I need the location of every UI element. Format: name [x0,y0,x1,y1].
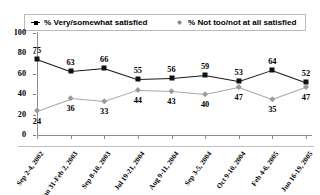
series-line-segment [71,98,105,102]
data-point-label: 55 [130,67,146,75]
legend-entry-not-too-not-at-all-satisfied: % Not too/not at all satisfied [175,17,296,28]
series-line-segment [138,90,172,92]
x-axis-tick [272,136,273,139]
data-point-label: 59 [197,63,213,71]
y-axis-tick-label: 60 [4,70,26,78]
data-point-label: 53 [231,69,247,77]
y-axis-tick-label: 100 [4,29,26,37]
legend-entry-very-somewhat-satisfied: % Very/somewhat satisfied [31,17,147,28]
data-point-marker [34,108,40,114]
series-line-segment [138,78,172,80]
y-axis-tick [33,115,36,116]
data-point-label: 44 [130,97,146,105]
diamond-marker-icon [175,18,184,27]
legend-label: % Very/somewhat satisfied [44,17,147,28]
x-axis-tick [37,136,38,139]
y-axis-tick-label: 40 [4,90,26,98]
data-point-marker [303,84,309,90]
data-point-label: 47 [298,94,314,102]
y-axis-tick-label: 20 [4,111,26,119]
y-axis-tick [33,135,36,136]
data-point-label: 43 [164,98,180,106]
data-point-label: 36 [63,105,79,113]
chart-legend: % Very/somewhat satisfied % Not too/not … [24,14,306,31]
y-axis-tick [33,33,36,34]
y-axis-tick-label: 80 [4,49,26,57]
x-axis-tick [104,136,105,139]
x-axis-line [37,135,312,136]
data-point-label: 63 [63,59,79,67]
data-point-label: 47 [231,94,247,102]
data-point-label: 52 [298,70,314,78]
y-axis-tick-label: 0 [4,131,26,139]
data-point-label: 64 [264,58,280,66]
data-point-label: 75 [29,47,45,55]
plot-bottom-rule [18,146,314,147]
x-axis-tick-label: Sep 2-4, 2002 [3,150,46,195]
square-marker-icon [31,18,40,27]
series-line-segment [171,91,205,95]
series-line-segment [71,68,105,72]
x-axis-tick [172,136,173,139]
data-point-marker [202,91,208,97]
data-point-marker [236,84,242,90]
data-point-label: 56 [164,66,180,74]
legend-label: % Not too/not at all satisfied [188,17,296,28]
series-line-segment [172,75,206,79]
x-axis-tick [138,136,139,139]
data-point-marker [68,68,73,73]
data-point-marker [102,65,107,70]
data-point-marker [236,78,241,83]
data-point-marker [135,87,141,93]
data-point-marker [135,76,140,81]
data-point-marker [169,88,175,94]
y-axis-tick [33,94,36,95]
data-point-label: 33 [96,108,112,116]
data-point-marker [304,79,309,84]
satisfaction-line-chart: % Very/somewhat satisfied % Not too/not … [0,0,320,195]
data-point-label: 66 [96,56,112,64]
x-axis-tick [205,136,206,139]
data-point-marker [169,75,174,80]
x-axis-tick [239,136,240,139]
data-point-marker [270,67,275,72]
data-point-label: 35 [264,106,280,114]
y-axis-tick [33,74,36,75]
data-point-label: 24 [29,118,45,126]
data-point-marker [203,72,208,77]
x-axis-tick [306,136,307,139]
data-point-label: 40 [197,101,213,109]
x-axis-tick [71,136,72,139]
data-point-marker [35,56,40,61]
